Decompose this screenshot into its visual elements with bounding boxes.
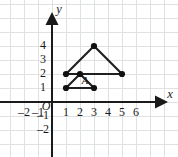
- x-tick-label: 5: [119, 105, 125, 119]
- x-axis-arrowhead: [155, 96, 168, 109]
- coordinate-plot-svg: –2–11234564321–1–2 O x y A: [0, 0, 178, 157]
- tick-labels: –2–11234564321–1–2: [17, 38, 139, 136]
- y-axis-label: y: [54, 2, 62, 16]
- x-tick-label: 1: [63, 105, 69, 119]
- vertex-dot: [63, 85, 69, 91]
- x-tick-label: 6: [133, 105, 139, 119]
- vertex-dot: [119, 71, 125, 77]
- y-tick-label: 3: [40, 52, 46, 66]
- x-tick-label: 2: [77, 105, 83, 119]
- x-axis-label: x: [166, 87, 173, 101]
- vertex-dot: [91, 85, 97, 91]
- x-tick-label: 3: [91, 105, 97, 119]
- y-tick-label: 1: [40, 80, 46, 94]
- vertex-dot: [91, 43, 97, 49]
- x-tick-label: –2: [17, 105, 30, 119]
- coordinate-plane-figure: –2–11234564321–1–2 O x y A: [0, 0, 178, 157]
- vertex-dot: [63, 71, 69, 77]
- grid-lines: [0, 0, 178, 157]
- x-tick-label: 4: [105, 105, 111, 119]
- y-tick-label: 4: [40, 38, 46, 52]
- y-tick-label: –2: [36, 122, 49, 136]
- triangle-a-label: A: [81, 75, 89, 86]
- origin-label: O: [42, 99, 51, 113]
- y-tick-label: 2: [40, 66, 46, 80]
